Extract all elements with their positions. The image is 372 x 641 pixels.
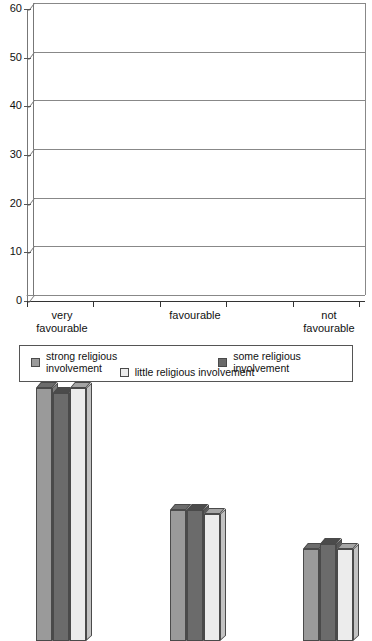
gridline: [33, 295, 365, 296]
gridline: [33, 52, 365, 53]
x-axis-category-label-line: very: [7, 309, 117, 322]
bar-front-face: [204, 514, 220, 641]
x-axis-category-label-line: favourable: [7, 322, 117, 335]
bar-side-face: [353, 543, 359, 641]
bar-front-face: [337, 549, 353, 641]
y-tick-mark: [24, 9, 31, 10]
y-tick-label: 50: [0, 52, 22, 63]
y-tick-mark: [24, 106, 31, 107]
legend-label-little: little religious involvement: [135, 366, 255, 378]
bar-front-face: [70, 388, 86, 641]
gridline: [33, 149, 365, 150]
x-tick-mark: [27, 301, 28, 307]
bar-front-face: [36, 388, 52, 641]
y-tick-mark: [24, 58, 31, 59]
gridline: [33, 246, 365, 247]
x-axis-category-label: notfavourable: [274, 309, 372, 335]
x-tick-mark: [293, 301, 294, 307]
y-tick-label: 10: [0, 246, 22, 257]
y-tick-label: 60: [0, 3, 22, 14]
y-tick-label: 30: [0, 149, 22, 160]
x-axis-line: [27, 301, 365, 302]
plot-area: 0102030405060 veryfavourablefavourableno…: [0, 0, 372, 340]
x-tick-mark: [93, 301, 94, 307]
bar-front-face: [303, 549, 319, 641]
x-axis-category-label-line: favourable: [140, 309, 250, 322]
bar-side-face: [86, 383, 92, 641]
bar-front-face: [53, 393, 69, 641]
legend-swatch-icon-little: [120, 368, 129, 377]
y-tick-label: 40: [0, 100, 22, 111]
chart-legend: strong religious involvement some religi…: [19, 345, 353, 382]
bar-front-face: [170, 510, 186, 641]
bar-front-face: [320, 544, 336, 641]
x-axis-category-label: veryfavourable: [7, 309, 117, 335]
x-tick-mark: [160, 301, 161, 307]
legend-item-little: little religious involvement: [120, 366, 255, 378]
gridline: [33, 3, 365, 4]
x-axis-category-label-line: favourable: [274, 322, 372, 335]
gridline: [33, 100, 365, 101]
x-axis-category-label-line: not: [274, 309, 372, 322]
gridline: [33, 198, 365, 199]
y-tick-mark: [24, 252, 31, 253]
y-tick-label: 0: [0, 295, 22, 306]
x-tick-mark: [226, 301, 227, 307]
y-tick-mark: [24, 204, 31, 205]
legend-row-bottom: little religious involvement: [20, 366, 354, 378]
plot-right-border: [365, 3, 366, 295]
x-tick-mark: [359, 301, 360, 307]
y-tick-label: 20: [0, 198, 22, 209]
y-tick-mark: [24, 155, 31, 156]
bar-side-face: [220, 509, 226, 641]
bar-front-face: [187, 510, 203, 641]
x-axis-category-label: favourable: [140, 309, 250, 322]
